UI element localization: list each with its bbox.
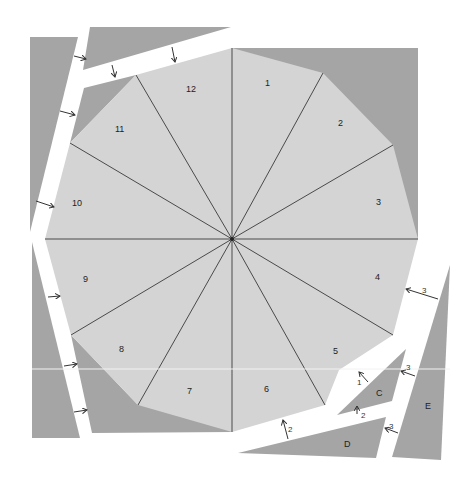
hint-3-piece-D: 3 <box>389 422 394 431</box>
sector-label-10: 10 <box>72 198 82 208</box>
sector-label-8: 8 <box>119 344 124 354</box>
hint-2-piece-C-bottom: 2 <box>361 411 366 420</box>
piece-label-C: C <box>376 388 383 398</box>
sector-label-4: 4 <box>375 272 380 282</box>
dissection-diagram: 1 2 3 4 5 6 7 8 9 10 11 12 C D E 3 1 3 2… <box>0 0 471 480</box>
sector-label-12: 12 <box>186 84 196 94</box>
sector-label-3: 3 <box>376 197 381 207</box>
hint-1-piece-C: 1 <box>357 378 362 387</box>
sector-label-9: 9 <box>83 274 88 284</box>
piece-label-D: D <box>344 439 351 449</box>
hint-3-sector-4: 3 <box>422 286 427 295</box>
sector-label-7: 7 <box>187 386 192 396</box>
sector-label-11: 11 <box>115 124 124 134</box>
sector-label-5: 5 <box>333 346 338 356</box>
hint-3-piece-C: 3 <box>406 363 411 372</box>
hint-2-sector-6: 2 <box>288 425 293 434</box>
sector-label-6: 6 <box>264 384 269 394</box>
sector-label-1: 1 <box>265 78 270 88</box>
sector-label-2: 2 <box>338 118 343 128</box>
piece-label-E: E <box>425 401 431 411</box>
